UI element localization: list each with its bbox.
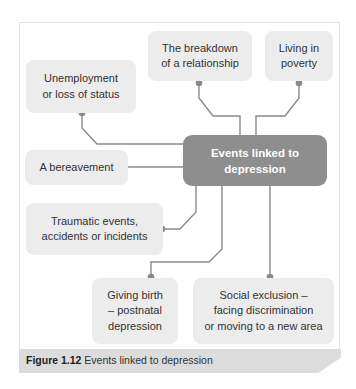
node-text-line: Giving birth bbox=[107, 288, 163, 304]
figure-caption-text: Events linked to depression bbox=[81, 354, 212, 366]
node-text-line: Unemployment bbox=[42, 71, 119, 87]
connector-poverty bbox=[256, 83, 299, 135]
node-text-line: of a relationship bbox=[161, 56, 239, 72]
node-text-line: accidents or incidents bbox=[42, 229, 148, 245]
node-text-line: poverty bbox=[279, 56, 319, 72]
figure-caption: Figure 1.12 Events linked to depression bbox=[26, 354, 213, 366]
node-breakdown: The breakdown of a relationship bbox=[148, 31, 252, 81]
node-text-line: Living in bbox=[279, 41, 319, 57]
node-text-line: depression bbox=[107, 319, 163, 335]
center-title-line: Events linked to bbox=[211, 145, 299, 161]
connector-unemployment bbox=[82, 113, 183, 144]
node-bereavement: A bereavement bbox=[25, 150, 128, 185]
node-traumatic: Traumatic events, accidents or incidents bbox=[26, 203, 163, 255]
connector-breakdown bbox=[199, 83, 240, 135]
node-center-events: Events linked to depression bbox=[183, 135, 327, 186]
node-text-line: A bereavement bbox=[40, 160, 114, 176]
node-text-line: – postnatal bbox=[107, 303, 163, 319]
node-poverty: Living in poverty bbox=[265, 31, 333, 81]
node-text-line: Traumatic events, bbox=[42, 214, 148, 230]
connector-traumatic bbox=[162, 186, 196, 229]
node-text-line: facing discrimination bbox=[204, 303, 322, 319]
node-text-line: or loss of status bbox=[42, 87, 119, 103]
node-text-line: Social exclusion – bbox=[204, 288, 322, 304]
figure-label: Figure 1.12 bbox=[26, 354, 81, 366]
node-birth: Giving birth – postnatal depression bbox=[92, 278, 178, 344]
node-text-line: The breakdown bbox=[161, 41, 239, 57]
node-exclusion: Social exclusion – facing discrimination… bbox=[193, 278, 334, 344]
node-text-line: or moving to a new area bbox=[204, 319, 322, 335]
node-unemployment: Unemployment or loss of status bbox=[26, 60, 136, 113]
center-title-line: depression bbox=[211, 161, 299, 177]
